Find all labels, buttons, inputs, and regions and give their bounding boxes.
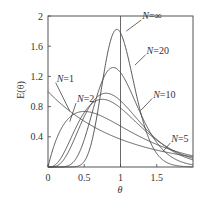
series-label: N=∞ [141,10,161,21]
label-leader-line [135,55,146,65]
series-label: N=1 [56,73,74,84]
x-tick-label: 1 [118,172,123,183]
x-tick-label: 0 [46,172,51,183]
x-tick-label: 0.5 [78,172,91,183]
x-axis-label: θ [118,184,123,195]
series-labels: N=1N=2N=5N=10N=20N=∞ [56,10,189,152]
label-leader-line [126,20,141,31]
y-tick-label: 2 [38,11,43,22]
y-tick-label: 1.2 [31,71,44,82]
label-leader-line [70,103,76,122]
y-tick-label: 0.4 [31,131,44,142]
y-tick-label: 1.6 [31,41,44,52]
series-label: N=20 [146,45,169,56]
series-label: N=10 [152,89,175,100]
y-tick-label: 0.8 [31,101,44,112]
series-label: N=5 [170,133,188,144]
y-axis-label: E(θ) [15,81,27,99]
x-tick-label: 1.5 [151,172,164,183]
label-leader-line [141,99,152,111]
series-label: N=2 [76,93,94,104]
rtd-chart: 00.511.5 0.40.81.21.62 N=1N=2N=5N=10N=20… [0,0,208,213]
label-leader-line [56,83,70,111]
